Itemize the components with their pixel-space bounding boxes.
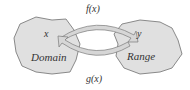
range-name-label: Range: [127, 51, 155, 62]
domain-variable-label: x: [44, 29, 48, 39]
range-variable-label: y: [137, 29, 141, 39]
forward-function-label: f(x): [86, 4, 100, 14]
domain-name-label: Domain: [31, 52, 66, 63]
inverse-function-label: g(x): [86, 74, 102, 84]
